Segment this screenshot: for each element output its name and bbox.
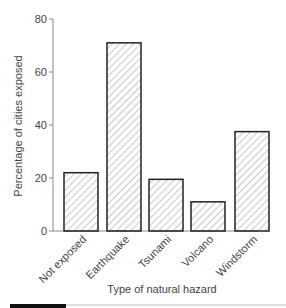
y-tick-label: 60 [35, 66, 47, 78]
y-tick-label: 0 [41, 225, 47, 237]
bar-earthquake [107, 43, 141, 231]
y-tick-label: 80 [35, 13, 47, 25]
bar-tsunami [149, 179, 183, 231]
bar-windstorm [235, 132, 269, 231]
x-tick-label: Windstorm [214, 233, 260, 279]
x-axis-label: Type of natural hazard [107, 283, 216, 295]
y-axis-label: Percentage of cities exposed [12, 55, 24, 196]
bar-volcano [191, 202, 225, 231]
x-tick-label: Volcano [179, 233, 215, 269]
x-axis-labels: Not exposedEarthquakeTsunamiVolcanoWinds… [36, 233, 259, 285]
bars [64, 43, 269, 231]
x-tick-label: Not exposed [36, 233, 88, 285]
x-tick-label: Tsunami [136, 233, 173, 270]
y-tick-label: 20 [35, 172, 47, 184]
footer-bar [10, 304, 66, 308]
bar-not-exposed [64, 173, 98, 231]
y-tick-label: 40 [35, 119, 47, 131]
bar-chart: 020406080 Not exposedEarthquakeTsunamiVo… [0, 0, 286, 308]
x-tick-label: Earthquake [83, 233, 131, 281]
